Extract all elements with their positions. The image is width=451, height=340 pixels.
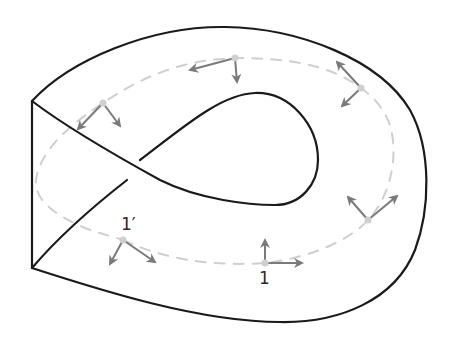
outer-boundary-edge [32, 27, 426, 322]
crossing-back-edge [32, 180, 127, 268]
frame-vectors-3 [337, 62, 365, 106]
end-point-label: 1′ [121, 216, 136, 233]
dashed-loop-path [36, 58, 394, 264]
frame-vectors-2 [348, 196, 397, 224]
frame-vectors-1 [262, 240, 303, 267]
surface-diagram [0, 0, 451, 340]
start-point-label: 1 [259, 270, 270, 287]
frame-vectors-5 [78, 100, 120, 130]
inner-loop-edge [32, 93, 318, 205]
